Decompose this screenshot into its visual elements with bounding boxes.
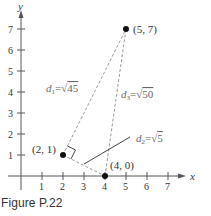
x-axis: x 1 2 3 4 5 6 7 [8,170,195,192]
point-marker-icon [60,152,66,158]
coordinate-plane: y 1 2 3 4 5 6 7 x 1 2 3 4 5 6 7 [0,0,211,216]
point-marker-icon [102,173,108,179]
x-tick-label: 6 [144,181,149,192]
x-tick-label: 1 [39,181,44,192]
figure-caption: Figure P.22 [1,196,63,210]
distance-label-d2: d2=√5 [136,132,163,146]
x-tick-label: 3 [81,181,86,192]
y-axis-label: y [17,0,23,12]
point-marker-icon [123,26,129,32]
y-tick-label: 6 [8,45,13,56]
x-tick-label: 7 [165,181,170,192]
y-tick-label: 1 [8,150,13,161]
right-angle-marker-icon [68,146,76,159]
y-tick-label: 4 [8,87,13,98]
y-axis: y 1 2 3 4 5 6 7 [8,0,25,190]
x-axis-arrow-icon [178,174,186,179]
point-label: (2, 1) [32,143,56,156]
points: (2, 1) (4, 0) (5, 7) [32,23,157,179]
x-tick-label: 5 [123,181,128,192]
point-label: (5, 7) [133,23,157,36]
point-label: (4, 0) [110,159,134,172]
triangle-sides [63,29,126,176]
y-tick-label: 2 [8,129,13,140]
y-tick-label: 3 [8,108,13,119]
x-tick-label: 4 [102,181,107,192]
y-tick-label: 7 [8,24,13,35]
x-axis-label: x [189,170,195,182]
distance-label-d3: d3=√50 [121,88,154,102]
distance-diagram: y 1 2 3 4 5 6 7 x 1 2 3 4 5 6 7 [0,0,211,216]
y-tick-label: 5 [8,66,13,77]
x-tick-label: 2 [60,181,65,192]
distance-label-d1: d1=√45 [46,82,79,96]
